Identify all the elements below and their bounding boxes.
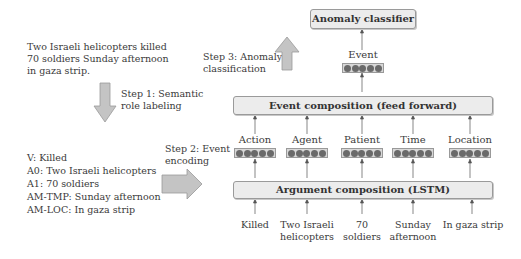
time-vector bbox=[392, 148, 434, 158]
neuron-icon bbox=[367, 65, 374, 72]
role-label-action: Action bbox=[225, 134, 285, 145]
role-label-agent: Agent bbox=[277, 134, 337, 145]
neuron-icon bbox=[375, 65, 382, 72]
location-vector bbox=[449, 148, 491, 158]
event-vector bbox=[342, 63, 384, 73]
neuron-icon bbox=[352, 65, 359, 72]
neuron-icon bbox=[359, 65, 366, 72]
input-line: afternoon bbox=[381, 231, 445, 243]
action-vector bbox=[234, 148, 276, 158]
agent-vector bbox=[286, 148, 328, 158]
role-label-location: Location bbox=[440, 134, 500, 145]
right-arrow-icon bbox=[162, 169, 202, 199]
input-time: Sunday afternoon bbox=[381, 219, 445, 243]
up-arrow-icon bbox=[275, 37, 299, 70]
argument-composition-box: Argument composition (LSTM) bbox=[233, 181, 493, 199]
input-location: In gaza strip bbox=[437, 219, 509, 231]
event-label: Event bbox=[333, 49, 393, 60]
neuron-icon bbox=[344, 65, 351, 72]
input-line: In gaza strip bbox=[437, 219, 509, 231]
input-line: Sunday bbox=[381, 219, 445, 231]
patient-vector bbox=[341, 148, 383, 158]
down-arrow-icon bbox=[94, 83, 116, 122]
event-composition-box: Event composition (feed forward) bbox=[233, 96, 493, 115]
anomaly-classifier-box: Anomaly classifier bbox=[310, 9, 416, 29]
role-label-time: Time bbox=[383, 134, 443, 145]
